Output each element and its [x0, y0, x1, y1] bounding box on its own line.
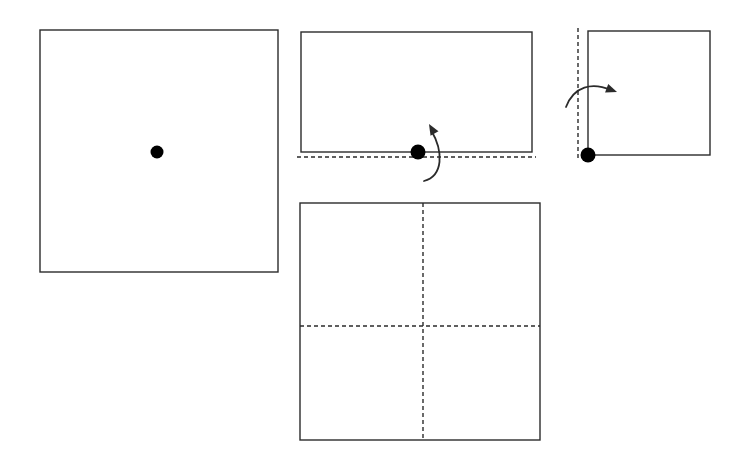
panel-region-unfolded-result-with-creases[interactable] — [290, 193, 550, 450]
panel-region-second-fold-left-to-right[interactable] — [578, 21, 720, 165]
panel-region-unfolded-sheet-with-center-dot[interactable] — [30, 20, 288, 282]
panel-region-first-fold-bottom-up[interactable] — [291, 22, 542, 162]
paper-folding-figure — [0, 0, 747, 464]
